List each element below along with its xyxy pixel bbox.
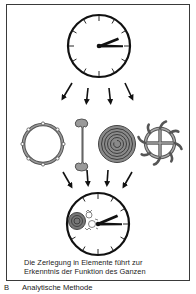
clock-icon-bottom xyxy=(67,193,129,255)
panel-letter: B xyxy=(4,283,22,292)
clock-icon-top xyxy=(68,15,130,77)
caption-line-1: Die Zerlegung in Elemente führt zur xyxy=(24,258,184,267)
figure-caption: Die Zerlegung in Elemente führt zur Erke… xyxy=(24,258,184,276)
panel-label: BAnalytische Methode xyxy=(4,283,93,292)
panel-title: Analytische Methode xyxy=(22,283,93,292)
diagram-artwork xyxy=(0,0,196,294)
caption-line-2: Erkenntnis der Funktion des Ganzen xyxy=(24,267,184,276)
ring-component-icon xyxy=(21,122,65,166)
wrench-component-icon xyxy=(75,119,88,171)
arrows-recompose xyxy=(63,170,132,186)
sun-wheel-component-icon xyxy=(139,122,182,165)
spiral-spring-icon xyxy=(99,126,136,163)
arrows-decompose xyxy=(63,83,132,102)
